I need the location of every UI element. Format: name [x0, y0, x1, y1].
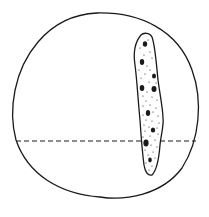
outer-circle: [13, 13, 199, 198]
figure-canvas: [0, 0, 209, 217]
elongated-inclusion: [134, 33, 163, 175]
